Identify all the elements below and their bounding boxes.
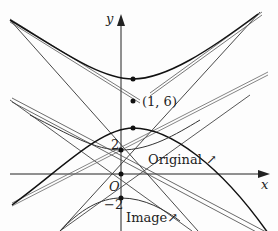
vertex-point [131,77,136,82]
origin-label: O [109,180,120,193]
original-label: Original ↗ [148,153,217,166]
y-axis-label: y [106,12,113,25]
vertex-point [131,126,136,131]
tick-label-neg2: −2 [104,198,123,211]
point-label: (1, 6) [142,95,177,108]
arrow-icon: ↗ [167,210,178,225]
y-axis-arrow-icon [117,14,125,26]
diagram-canvas [0,0,278,231]
x-axis-label: x [261,178,268,191]
origin-point [119,172,124,177]
image-label: Image↗ [126,211,178,224]
upper-hyperbola-branch [10,14,258,79]
center-point [131,99,136,104]
tick-label-2: 2 [111,138,119,151]
hyperbola-diagram: y x O (1, 6) 2 −2 Original ↗ Image↗ [0,0,278,231]
double-line [12,72,268,203]
asymptote-line [60,12,260,231]
arrow-icon: ↗ [206,152,217,167]
